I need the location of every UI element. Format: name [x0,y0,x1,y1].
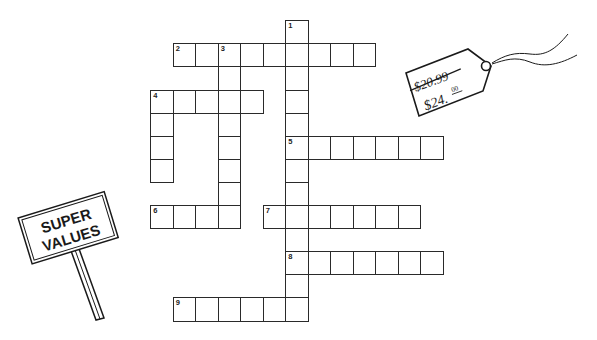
string-icon [492,34,568,63]
decorations: $20.99 $24. 00 SUPER VALUES [0,0,597,340]
super-values-sign: SUPER VALUES [18,192,118,320]
price-tag: $20.99 $24. 00 [406,34,577,116]
tag-hole-icon [482,62,491,71]
